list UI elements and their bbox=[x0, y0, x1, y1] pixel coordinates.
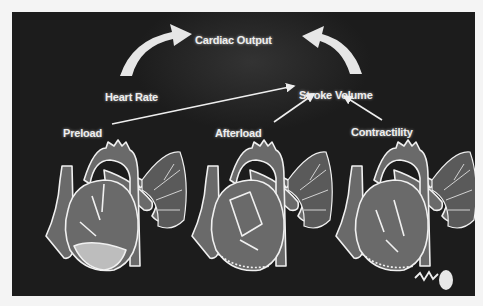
flow-arrows bbox=[12, 12, 475, 296]
lung-icon bbox=[288, 152, 332, 228]
ecg-heart-logo-icon bbox=[415, 270, 453, 290]
label-contractility: Contractility bbox=[351, 126, 413, 138]
lung-icon bbox=[432, 152, 475, 228]
heart-illustration-afterload bbox=[192, 140, 332, 271]
label-preload: Preload bbox=[63, 127, 102, 139]
heart-illustration-contractility bbox=[336, 140, 475, 271]
heart-illustration-preload bbox=[46, 140, 186, 271]
arrow-heart-rate-to-cardiac-output bbox=[120, 24, 192, 76]
diagram-panel: Cardiac Output Heart Rate Stroke Volume … bbox=[12, 12, 475, 296]
label-stroke-volume: Stroke Volume bbox=[299, 89, 373, 101]
label-cardiac-output: Cardiac Output bbox=[195, 34, 272, 46]
lung-icon bbox=[142, 152, 186, 228]
label-afterload: Afterload bbox=[215, 127, 261, 139]
arrow-stroke-volume-to-cardiac-output bbox=[302, 26, 362, 74]
label-heart-rate: Heart Rate bbox=[105, 91, 158, 103]
